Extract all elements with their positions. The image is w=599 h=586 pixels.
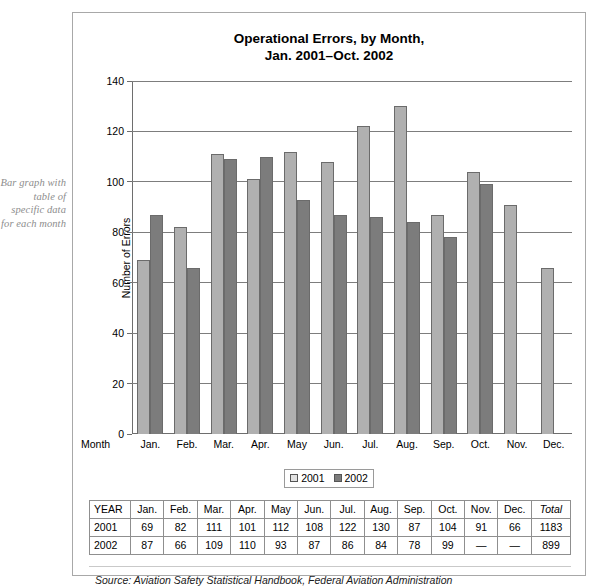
legend-label-2002: 2002	[345, 472, 368, 484]
y-tick-label-100: 100	[106, 176, 124, 188]
x-tick-label-jul: Jul.	[352, 438, 389, 450]
table-cell: 87	[398, 519, 431, 537]
x-tick-label-aug: Aug.	[389, 438, 426, 450]
table-cell: —	[498, 537, 532, 555]
y-tick-label-120: 120	[106, 125, 124, 137]
table-cell: —	[465, 537, 498, 555]
legend-item-2001[interactable]: 2001	[290, 472, 324, 484]
bar-2002-jul[interactable]	[370, 217, 383, 434]
table-cell: 2002	[90, 537, 131, 555]
table-header-cell: YEAR	[90, 501, 131, 519]
bar-2002-jan[interactable]	[150, 215, 163, 434]
bar-2001-oct[interactable]	[467, 172, 480, 434]
table-header-cell: May	[264, 501, 297, 519]
chart-title-line-2: Jan. 2001–Oct. 2002	[73, 47, 585, 64]
table-cell: 899	[532, 537, 571, 555]
x-tick-label-feb: Feb.	[169, 438, 206, 450]
legend-box: 2001 2002	[284, 469, 374, 488]
bar-2002-sep[interactable]	[444, 237, 457, 434]
table-cell: 104	[431, 519, 464, 537]
table-cell: 84	[364, 537, 397, 555]
bar-2002-mar[interactable]	[224, 159, 237, 434]
table-cell: 86	[331, 537, 364, 555]
table-header-cell: Dec.	[498, 501, 532, 519]
bar-2002-oct[interactable]	[480, 184, 493, 434]
margin-annotation: Bar graph with table of specific data fo…	[0, 176, 66, 230]
table-header-cell: Oct.	[431, 501, 464, 519]
chart-title: Operational Errors, by Month, Jan. 2001–…	[73, 30, 585, 64]
bar-2001-jul[interactable]	[357, 126, 370, 434]
table-header-row: YEARJan.Feb.Mar.Apr.MayJun.Jul.Aug.Sep.O…	[90, 501, 571, 519]
bar-2002-aug[interactable]	[407, 222, 420, 434]
table-cell: 87	[131, 537, 164, 555]
table-header-cell: Mar.	[197, 501, 230, 519]
table-header-cell: Jan.	[131, 501, 164, 519]
y-tick-label-60: 60	[112, 277, 124, 289]
y-tick-label-0: 0	[118, 428, 124, 440]
x-tick-label-mar: Mar.	[205, 438, 242, 450]
legend-item-2002[interactable]: 2002	[334, 472, 368, 484]
legend-swatch-2001-icon	[290, 474, 298, 482]
bar-group-may	[279, 81, 316, 434]
table-cell: 1183	[532, 519, 571, 537]
x-tick-label-dec: Dec.	[535, 438, 572, 450]
bar-2002-apr[interactable]	[260, 157, 273, 434]
table-cell: 99	[431, 537, 464, 555]
bar-group-apr	[242, 81, 279, 434]
bar-2001-jan[interactable]	[137, 260, 150, 434]
table-cell: 66	[164, 537, 197, 555]
figure-frame: Operational Errors, by Month, Jan. 2001–…	[72, 12, 586, 576]
table-cell: 122	[331, 519, 364, 537]
bar-2001-jun[interactable]	[321, 162, 334, 434]
bar-group-jan	[132, 81, 169, 434]
bar-2001-mar[interactable]	[211, 154, 224, 434]
bar-2001-nov[interactable]	[504, 205, 517, 434]
source-divider	[89, 566, 571, 567]
y-tick-label-80: 80	[112, 226, 124, 238]
y-tick-label-20: 20	[112, 378, 124, 390]
plot-area: Number of Errors 020406080100120140	[132, 81, 572, 434]
table-cell: 78	[398, 537, 431, 555]
bar-2001-aug[interactable]	[394, 106, 407, 434]
table-header-cell: Total	[532, 501, 571, 519]
bar-group-nov	[499, 81, 536, 434]
x-tick-label-nov: Nov.	[499, 438, 536, 450]
x-tick-label-sep: Sep.	[425, 438, 462, 450]
table-cell: 110	[231, 537, 264, 555]
table-header-cell: Feb.	[164, 501, 197, 519]
table-row: 200169821111011121081221308710491661183	[90, 519, 571, 537]
bar-group-mar	[205, 81, 242, 434]
table-cell: 2001	[90, 519, 131, 537]
bar-group-feb	[169, 81, 206, 434]
x-axis-tick-labels: Jan.Feb.Mar.Apr.MayJun.Jul.Aug.Sep.Oct.N…	[132, 438, 572, 450]
bar-2001-dec[interactable]	[541, 268, 554, 434]
bar-2002-feb[interactable]	[187, 268, 200, 434]
table-header-cell: Apr.	[231, 501, 264, 519]
table-cell: 111	[197, 519, 230, 537]
table-row: 20028766109110938786847899——899	[90, 537, 571, 555]
bar-group-sep	[425, 81, 462, 434]
table-cell: 108	[298, 519, 331, 537]
table-header-cell: Jun.	[298, 501, 331, 519]
x-tick-label-apr: Apr.	[242, 438, 279, 450]
bar-2001-apr[interactable]	[247, 179, 260, 434]
table-cell: 93	[264, 537, 297, 555]
bar-series-container	[132, 81, 572, 434]
bar-2002-jun[interactable]	[334, 215, 347, 434]
bar-2001-sep[interactable]	[431, 215, 444, 434]
table-cell: 82	[164, 519, 197, 537]
chart-title-line-1: Operational Errors, by Month,	[73, 30, 585, 47]
legend-swatch-2002-icon	[334, 474, 342, 482]
x-tick-label-may: May	[279, 438, 316, 450]
table-header-cell: Jul.	[331, 501, 364, 519]
bar-2002-may[interactable]	[297, 200, 310, 434]
source-note: Source: Aviation Safety Statistical Hand…	[95, 574, 452, 586]
table-cell: 130	[364, 519, 397, 537]
table-cell: 87	[298, 537, 331, 555]
x-tick-label-oct: Oct.	[462, 438, 499, 450]
data-table: YEARJan.Feb.Mar.Apr.MayJun.Jul.Aug.Sep.O…	[89, 500, 571, 555]
bar-2001-feb[interactable]	[174, 227, 187, 434]
bar-2001-may[interactable]	[284, 152, 297, 434]
bar-group-aug	[389, 81, 426, 434]
table-header-cell: Nov.	[465, 501, 498, 519]
